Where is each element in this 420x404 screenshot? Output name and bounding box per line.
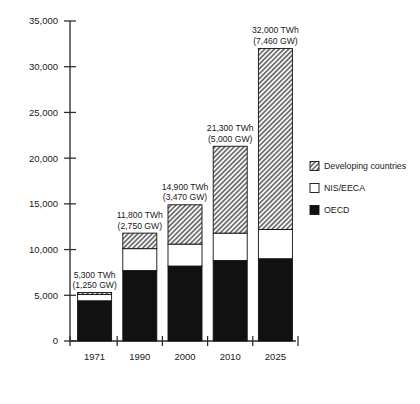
bar-value-gw: (5,000 GW) [208, 134, 253, 144]
bar-value-twh: 14,900 TWh [162, 182, 209, 192]
y-axis: 05,00010,00015,00020,00025,00030,00035,0… [29, 15, 76, 346]
bar-segment-nis-eeca[interactable] [123, 249, 157, 271]
bar-segment-oecd[interactable] [168, 266, 202, 341]
bar-segment-developing-countries[interactable] [213, 146, 247, 233]
bar-value-gw: (1,250 GW) [72, 280, 117, 290]
bar-value-label: 5,300 TWh(1,250 GW) [72, 270, 117, 291]
plot-area: 05,00010,00015,00020,00025,00030,00035,0… [29, 15, 299, 362]
bar-segment-developing-countries[interactable] [258, 48, 292, 229]
legend-label: Developing countries [324, 161, 407, 171]
y-tick-label: 25,000 [29, 107, 58, 118]
y-tick-label: 30,000 [29, 61, 58, 72]
y-tick-label: 15,000 [29, 198, 58, 209]
bar-value-twh: 32,000 TWh [252, 25, 299, 35]
bar-stack[interactable] [213, 146, 247, 341]
bar-value-gw: (3,470 GW) [163, 192, 208, 202]
x-tick-label: 2000 [174, 351, 195, 362]
legend-swatch-black [310, 206, 319, 215]
bar-value-label: 21,300 TWh(5,000 GW) [207, 123, 254, 144]
x-tick-label: 2025 [265, 351, 286, 362]
bar-segment-oecd[interactable] [78, 301, 112, 341]
bar-stack[interactable] [258, 48, 292, 341]
bar-segment-oecd[interactable] [123, 271, 157, 341]
bar-stack[interactable] [78, 293, 112, 341]
y-axis-tick-labels: 05,00010,00015,00020,00025,00030,00035,0… [29, 15, 58, 346]
x-tick-label: 1971 [84, 351, 105, 362]
stacked-bar-chart: 05,00010,00015,00020,00025,00030,00035,0… [0, 0, 420, 404]
bar-segment-oecd[interactable] [213, 261, 247, 341]
legend-label: NIS/EECA [324, 183, 365, 193]
legend-swatch-white [310, 184, 319, 193]
bar-segment-nis-eeca[interactable] [168, 244, 202, 266]
bar-segment-nis-eeca[interactable] [258, 229, 292, 258]
y-tick-label: 0 [53, 335, 58, 346]
legend: Developing countriesNIS/EECAOECD [310, 161, 407, 215]
x-tick-label: 1990 [129, 351, 150, 362]
y-tick-label: 5,000 [34, 290, 58, 301]
bar-value-label: 32,000 TWh(7,460 GW) [252, 25, 299, 46]
legend-swatch-hatched [310, 162, 319, 171]
x-axis-tick-labels: 19711990200020102025 [84, 351, 286, 362]
figure-caption [0, 390, 420, 404]
bar-segment-developing-countries[interactable] [78, 293, 112, 295]
legend-label: OECD [324, 205, 349, 215]
bar-value-gw: (2,750 GW) [118, 221, 163, 231]
bar-value-label: 14,900 TWh(3,470 GW) [162, 182, 209, 203]
y-tick-label: 20,000 [29, 153, 58, 164]
bar-value-twh: 11,800 TWh [117, 210, 163, 220]
y-tick-label: 10,000 [29, 244, 58, 255]
bar-segment-nis-eeca[interactable] [78, 294, 112, 300]
bar-segment-oecd[interactable] [258, 259, 292, 341]
bar-segment-developing-countries[interactable] [123, 233, 157, 249]
bar-stack[interactable] [168, 205, 202, 341]
bar-segment-nis-eeca[interactable] [213, 233, 247, 260]
bar-value-gw: (7,460 GW) [253, 36, 298, 46]
y-tick-label: 35,000 [29, 15, 58, 26]
bar-value-twh: 21,300 TWh [207, 123, 254, 133]
x-tick-label: 2010 [220, 351, 241, 362]
bar-value-twh: 5,300 TWh [74, 270, 116, 280]
bar-stack[interactable] [123, 233, 157, 341]
bar-value-label: 11,800 TWh(2,750 GW) [117, 210, 163, 231]
bar-segment-developing-countries[interactable] [168, 205, 202, 244]
